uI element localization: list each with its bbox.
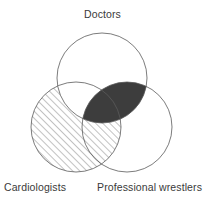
venn-diagram: Doctors Cardiologists Professional wrest…: [0, 0, 205, 201]
label-doctors: Doctors: [0, 9, 205, 20]
label-cardiologists: Cardiologists: [4, 182, 66, 193]
label-professional-wrestlers: Professional wrestlers: [97, 182, 202, 193]
venn-diagram-canvas: [0, 0, 205, 201]
